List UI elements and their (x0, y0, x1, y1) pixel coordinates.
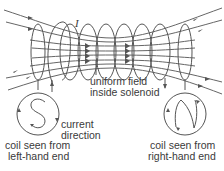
coil-turn-7 (150, 24, 170, 80)
uniform-field-label-line2: inside solenoid (90, 87, 159, 98)
left-coil-label-line2: left-hand end (8, 151, 69, 162)
end-coil-right (178, 24, 192, 80)
coil-turn-4 (96, 24, 116, 80)
coil-turn-5 (114, 24, 134, 80)
current-symbol: I (75, 18, 79, 29)
right-coil-label-line2: right-hand end (148, 151, 216, 162)
coil-turn-6 (132, 24, 152, 80)
field-line-inner-3 (32, 55, 195, 58)
field-line-inner-2 (32, 48, 195, 51)
right-end-view (164, 93, 206, 135)
left-end-view (17, 93, 59, 135)
end-coil-left (31, 24, 45, 80)
field-line-inner-1 (30, 40, 195, 46)
solenoid-diagram: I uniform field inside solenoid current … (0, 0, 224, 171)
field-line-inner-4 (30, 60, 195, 66)
